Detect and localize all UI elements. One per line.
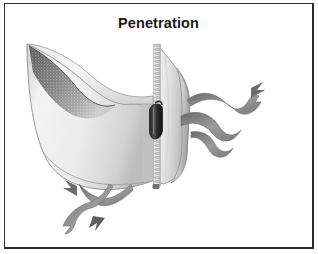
left-flap [25, 42, 155, 190]
zipper-slider [150, 101, 163, 139]
zipper-teeth-lower [154, 138, 160, 186]
unzipping-membrane-illustration [5, 4, 314, 249]
figure-frame: Penetration [4, 3, 314, 249]
right-tendrils [181, 82, 265, 157]
zipper-teeth-upper [154, 44, 160, 108]
